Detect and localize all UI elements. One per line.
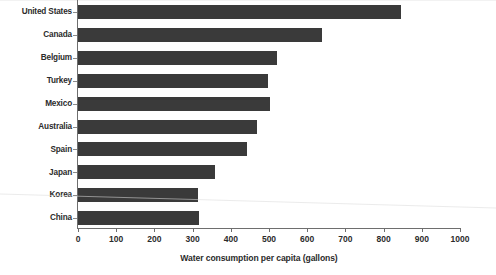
- x-axis-tick-label: 0: [58, 234, 98, 245]
- x-axis-tick: [307, 228, 308, 232]
- x-axis-tick: [345, 228, 346, 232]
- y-axis-tick: [73, 149, 77, 150]
- category-label: Japan: [0, 168, 72, 178]
- x-axis-tick: [78, 228, 79, 232]
- x-axis-tick-label: 300: [173, 234, 213, 245]
- category-label: Belgium: [0, 53, 72, 63]
- x-axis-tick: [154, 228, 155, 232]
- bar: [78, 188, 198, 202]
- bar: [78, 165, 215, 179]
- x-axis-title-text: Water consumption per capita (gallons): [180, 253, 337, 263]
- y-axis-tick: [73, 58, 77, 59]
- x-axis-tick: [193, 228, 194, 232]
- bar: [78, 51, 277, 65]
- x-axis-tick: [422, 228, 423, 232]
- y-axis-tick: [73, 127, 77, 128]
- x-axis-tick-label: 600: [287, 234, 327, 245]
- category-label: Mexico: [0, 99, 72, 109]
- x-axis-tick-label: 500: [249, 234, 289, 245]
- x-axis-tick-label: 200: [134, 234, 174, 245]
- y-axis-tick: [73, 195, 77, 196]
- category-label: Australia: [0, 122, 72, 132]
- bar-chart: United StatesCanadaBelgiumTurkeyMexicoAu…: [0, 0, 496, 275]
- plot-area: [78, 0, 460, 228]
- x-axis-tick: [269, 228, 270, 232]
- bar: [78, 97, 270, 111]
- bar: [78, 28, 322, 42]
- x-axis-tick-label: 700: [325, 234, 365, 245]
- y-axis-tick: [73, 218, 77, 219]
- bar: [78, 120, 257, 134]
- x-axis-title: Water consumption per capita (gallons): [0, 253, 496, 263]
- x-axis-tick-label: 400: [211, 234, 251, 245]
- bar: [78, 74, 268, 88]
- y-axis-tick: [73, 104, 77, 105]
- category-label: Spain: [0, 145, 72, 155]
- y-axis-tick: [73, 81, 77, 82]
- x-axis-tick-label: 1000: [440, 234, 480, 245]
- x-axis-tick-label: 100: [96, 234, 136, 245]
- category-axis-labels: United StatesCanadaBelgiumTurkeyMexicoAu…: [0, 0, 72, 228]
- bar: [78, 5, 401, 19]
- x-axis-tick-label: 800: [364, 234, 404, 245]
- x-axis-tick: [460, 228, 461, 232]
- category-label: Turkey: [0, 76, 72, 86]
- x-axis-tick: [116, 228, 117, 232]
- x-axis-tick: [384, 228, 385, 232]
- bar: [78, 211, 199, 225]
- y-axis-tick: [73, 12, 77, 13]
- category-label: Canada: [0, 30, 72, 40]
- category-label: Korea: [0, 190, 72, 200]
- category-label: United States: [0, 7, 72, 17]
- y-axis-tick: [73, 35, 77, 36]
- y-axis-tick: [73, 172, 77, 173]
- x-axis-tick-label: 900: [402, 234, 442, 245]
- category-label: China: [0, 213, 72, 223]
- x-axis-tick: [231, 228, 232, 232]
- bar: [78, 142, 247, 156]
